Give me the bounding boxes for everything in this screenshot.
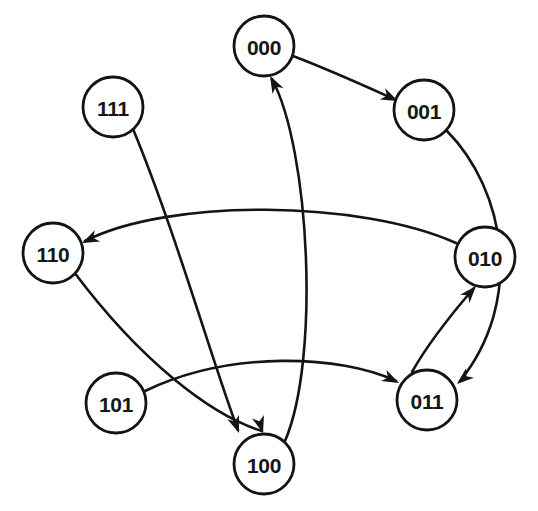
state-node-111[interactable]: 111 bbox=[83, 77, 143, 137]
node-label: 000 bbox=[247, 36, 281, 59]
state-node-001[interactable]: 001 bbox=[394, 80, 454, 140]
node-label: 110 bbox=[37, 243, 70, 266]
node-label: 101 bbox=[99, 393, 134, 416]
node-label: 011 bbox=[411, 390, 445, 413]
edge-100-to-000 bbox=[265, 73, 307, 441]
state-transition-graph: 000001010011100101110111 bbox=[0, 0, 538, 511]
node-label: 010 bbox=[468, 247, 502, 270]
edge-000-to-001 bbox=[293, 56, 401, 107]
state-node-010[interactable]: 010 bbox=[455, 227, 515, 287]
state-node-100[interactable]: 100 bbox=[234, 434, 294, 494]
node-label: 001 bbox=[407, 100, 442, 123]
state-node-101[interactable]: 101 bbox=[86, 373, 146, 433]
state-node-110[interactable]: 110 bbox=[23, 223, 83, 283]
state-node-011[interactable]: 011 bbox=[397, 370, 457, 430]
edge-curve bbox=[272, 79, 307, 441]
arrowhead-icon bbox=[453, 368, 474, 388]
edge-curve bbox=[412, 288, 474, 372]
edge-curve bbox=[133, 129, 238, 430]
edge-010-to-110 bbox=[79, 210, 456, 249]
state-node-000[interactable]: 000 bbox=[234, 16, 294, 76]
edge-011-to-010 bbox=[412, 282, 481, 372]
arrowhead-icon bbox=[381, 370, 402, 389]
edge-curve bbox=[85, 210, 456, 243]
nodes-layer: 000001010011100101110111 bbox=[23, 16, 515, 494]
node-label: 100 bbox=[247, 454, 281, 477]
node-label: 111 bbox=[97, 97, 129, 120]
edge-curve bbox=[293, 56, 396, 100]
state-diagram-root: 000001010011100101110111 bbox=[0, 0, 538, 511]
